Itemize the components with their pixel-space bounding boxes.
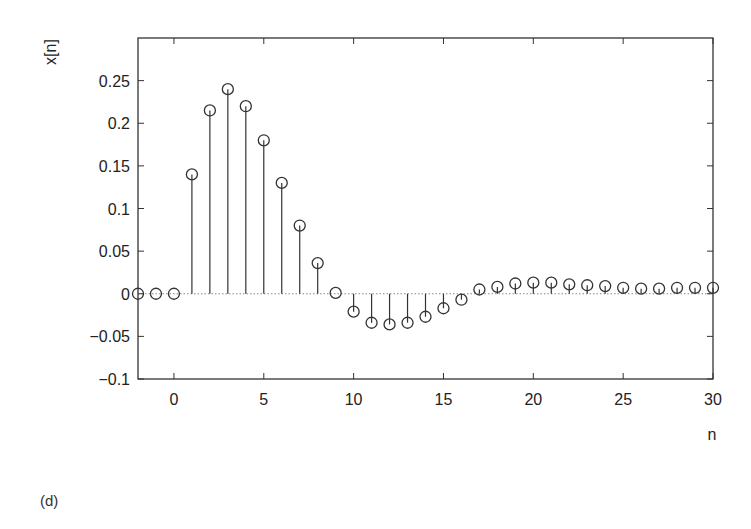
y-tick-label: 0.25 (99, 73, 130, 90)
x-tick-label: 0 (169, 391, 178, 408)
plot-frame (138, 38, 713, 379)
stem-marker (330, 287, 341, 298)
y-tick-label: 0 (121, 286, 130, 303)
stem-series (133, 84, 719, 330)
axes-box (138, 38, 713, 379)
figure-caption: (d) (40, 492, 58, 509)
x-tick-label: 10 (345, 391, 363, 408)
stem-plot: 051015202530−0.1−0.0500.050.10.150.20.25… (0, 0, 751, 529)
x-tick-label: 20 (524, 391, 542, 408)
x-tick-label: 30 (704, 391, 722, 408)
y-tick-label: −0.05 (90, 328, 131, 345)
y-tick-label: 0.2 (108, 115, 130, 132)
x-tick-label: 25 (614, 391, 632, 408)
y-tick-label: 0.15 (99, 158, 130, 175)
y-tick-label: −0.1 (98, 371, 130, 388)
x-tick-label: 5 (259, 391, 268, 408)
y-tick-label: 0.1 (108, 201, 130, 218)
axis-ticks (138, 38, 713, 379)
y-axis-label: x[n] (42, 39, 59, 65)
axis-labels: 051015202530−0.1−0.0500.050.10.150.20.25… (42, 39, 722, 443)
x-tick-label: 15 (435, 391, 453, 408)
x-axis-label: n (708, 426, 717, 443)
y-tick-label: 0.05 (99, 243, 130, 260)
